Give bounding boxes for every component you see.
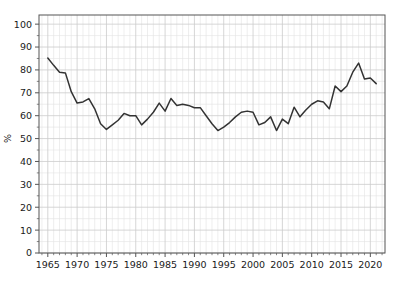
y-tick-label: 30	[20, 179, 32, 190]
x-tick-label: 1995	[212, 259, 236, 270]
x-tick-label: 1965	[36, 259, 60, 270]
x-tick-label: 2005	[270, 259, 294, 270]
y-tick-label: 70	[20, 87, 32, 98]
x-tick-label: 1980	[124, 259, 148, 270]
y-tick-label: 80	[20, 64, 32, 75]
x-tick-label: 1990	[182, 259, 206, 270]
chart-background	[0, 0, 402, 283]
y-tick-label: 10	[20, 225, 32, 236]
chart-container: 1965197019751980198519901995200020052010…	[0, 0, 402, 283]
x-tick-label: 2015	[329, 259, 353, 270]
x-tick-label: 1970	[65, 259, 89, 270]
y-tick-label: 60	[20, 110, 32, 121]
y-axis-title-text: %	[2, 134, 13, 143]
line-chart: 1965197019751980198519901995200020052010…	[0, 0, 402, 283]
x-tick-label: 1985	[153, 259, 177, 270]
y-tick-label: 50	[20, 133, 32, 144]
y-axis-title: %	[2, 134, 13, 143]
y-tick-label: 90	[20, 41, 32, 52]
y-tick-label: 100	[14, 19, 32, 30]
y-tick-label: 40	[20, 156, 32, 167]
y-tick-label: 20	[20, 202, 32, 213]
x-tick-label: 2010	[300, 259, 324, 270]
x-tick-label: 2020	[358, 259, 382, 270]
x-tick-label: 1975	[94, 259, 118, 270]
x-tick-label: 2000	[241, 259, 265, 270]
y-tick-label: 0	[26, 247, 32, 258]
